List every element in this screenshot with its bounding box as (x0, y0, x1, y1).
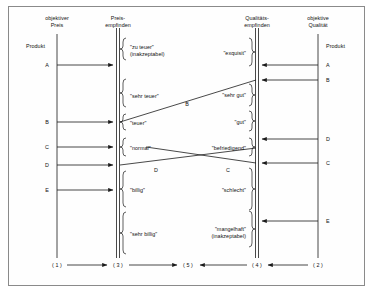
brace-gut (249, 111, 255, 131)
transfer-label-D: D (154, 167, 158, 174)
right-product-E: E (326, 218, 330, 225)
flow-node-1: ( 1 ) (52, 262, 62, 269)
left-product-E: E (45, 187, 49, 194)
header-line-2: Preis (45, 22, 69, 29)
quality-mapping-arrows (262, 65, 318, 221)
sublabel-produkt-left: Produkt (26, 43, 45, 50)
diagram-vector-layer (0, 0, 375, 294)
column-header-objektiver-preis: objektiver Preis (45, 15, 69, 28)
brace-sehr-teuer (120, 79, 126, 107)
quality-term-mangelhaft: "mangelhaft" (inakzeptabel) (211, 226, 246, 239)
flow-node-2: ( 2 ) (313, 262, 323, 269)
right-product-B: B (326, 77, 330, 84)
header-line-1: Preis- (105, 15, 131, 22)
header-line-1: objektive (307, 15, 329, 22)
flow-node-4: ( 4 ) (252, 262, 262, 269)
transfer-label-C: C (226, 167, 230, 174)
price-term-billig: "billig" (130, 187, 145, 194)
flow-node-5: ( 5 ) (183, 262, 193, 269)
header-line-2: empfinden (244, 22, 270, 29)
diagram-canvas: objektiver Preis Preis- empfinden Qualit… (0, 0, 375, 294)
term-subtext: (inakzeptabel) (211, 233, 246, 240)
price-term-sehr-billig: "sehr billig" (130, 231, 157, 238)
left-product-D: D (45, 162, 49, 169)
brace-zu-teuer (120, 38, 126, 60)
right-product-C: C (326, 160, 330, 167)
quality-term-schlecht: "schlecht" (222, 187, 246, 194)
axis-lines (57, 28, 318, 258)
right-product-A: A (326, 62, 330, 69)
brace-mangelhaft (249, 211, 255, 247)
column-header-qualitaetsempfinden: Qualitäts- empfinden (244, 15, 270, 28)
term-subtext: (inakzeptabel) (130, 51, 165, 58)
column-header-objektive-qualitaet: objektive Qualität (307, 15, 329, 28)
brace-sehr-billig (120, 212, 126, 254)
header-line-1: objektiver (45, 15, 69, 22)
header-line-2: Qualität (307, 22, 329, 29)
flow-node-3: ( 3 ) (113, 262, 123, 269)
price-term-sehr-teuer: "sehr teuer" (130, 93, 159, 100)
term-text: "zu teuer" (130, 44, 165, 51)
quality-term-exquisit: "exquisit" (223, 50, 246, 57)
price-mapping-arrows (57, 65, 113, 190)
quality-term-befriedigend: "befriedigend" (212, 145, 246, 152)
brace-sehr-gut (249, 84, 255, 106)
header-line-1: Qualitäts- (244, 15, 270, 22)
brace-exquisit (249, 38, 255, 66)
price-term-zu-teuer: "zu teuer" (inakzeptabel) (130, 44, 165, 57)
column-header-preisempfinden: Preis- empfinden (105, 15, 131, 28)
quality-term-sehr-gut: "sehr gut" (222, 92, 246, 99)
transfer-label-B: B (185, 101, 189, 108)
right-product-D: D (326, 136, 330, 143)
brace-schlecht (249, 168, 255, 210)
brace-befriedigend (249, 138, 255, 156)
left-product-C: C (45, 144, 49, 151)
brace-teuer (120, 114, 126, 130)
term-text: "mangelhaft" (211, 226, 246, 233)
sublabel-produkt-right: Produkt (326, 43, 345, 50)
brace-billig (120, 171, 126, 207)
quality-term-gut: "gut" (234, 119, 246, 126)
price-braces (120, 38, 126, 254)
price-term-teuer: "teuer" (130, 120, 146, 127)
quality-braces (249, 38, 255, 247)
brace-normal (120, 138, 126, 156)
left-product-B: B (45, 119, 49, 126)
price-term-normal: "normal" (130, 145, 151, 152)
left-product-A: A (45, 62, 49, 69)
header-line-2: empfinden (105, 22, 131, 29)
